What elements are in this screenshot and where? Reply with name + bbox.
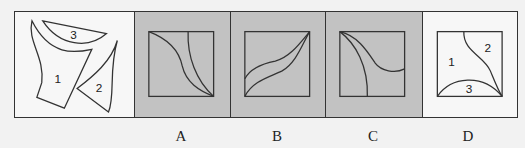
piece-3-number: 3 [70, 28, 77, 41]
puzzle-strip: 3 1 2 1 2 [14, 11, 518, 118]
option-c-drawing [326, 12, 421, 117]
piece-1-shape [31, 21, 92, 108]
option-b-drawing [231, 12, 325, 117]
source-pieces-drawing: 3 1 2 [15, 12, 134, 117]
region-3-number: 3 [465, 82, 472, 95]
piece-2-number: 2 [96, 81, 103, 94]
option-a-drawing [135, 12, 229, 117]
piece-1-number: 1 [55, 72, 62, 85]
option-b-label: B [267, 128, 287, 145]
option-c-label: C [363, 128, 383, 145]
option-a-label: A [171, 128, 191, 145]
region-2-number: 2 [484, 41, 491, 54]
source-pieces-panel: 3 1 2 [15, 12, 135, 117]
option-d-panel[interactable]: 1 2 3 [423, 12, 517, 117]
option-d-drawing: 1 2 3 [423, 12, 517, 117]
option-a-panel[interactable] [135, 12, 230, 117]
option-b-panel[interactable] [231, 12, 326, 117]
option-d-label: D [458, 128, 478, 145]
region-1-number: 1 [448, 55, 455, 68]
option-c-panel[interactable] [326, 12, 422, 117]
